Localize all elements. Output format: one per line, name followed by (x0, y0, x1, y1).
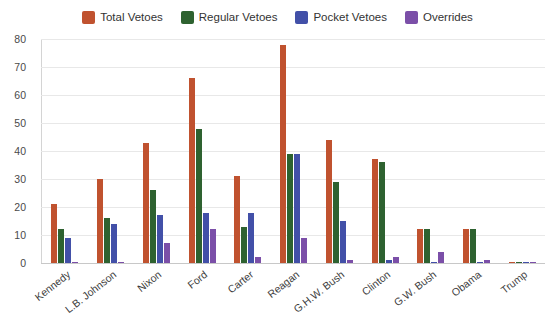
y-axis-tick-label: 80 (0, 33, 26, 45)
bar[interactable] (196, 129, 202, 263)
bar[interactable] (111, 224, 117, 263)
bar[interactable] (347, 260, 353, 263)
bar[interactable] (51, 204, 57, 263)
bar[interactable] (248, 213, 254, 263)
x-axis-tick-cell: Ford (179, 266, 225, 328)
legend-swatch-icon (181, 11, 194, 24)
x-axis-tick-label: Kennedy (32, 268, 72, 303)
bar[interactable] (72, 262, 78, 263)
x-axis-tick-label: Ford (185, 268, 209, 291)
bar[interactable] (424, 229, 430, 263)
bar[interactable] (530, 262, 536, 263)
bar-group (42, 39, 88, 263)
legend-swatch-icon (405, 11, 418, 24)
bar-group (499, 39, 545, 263)
bar-group (179, 39, 225, 263)
bar[interactable] (97, 179, 103, 263)
bar[interactable] (143, 143, 149, 263)
bar[interactable] (393, 257, 399, 263)
bar[interactable] (340, 221, 346, 263)
presidential-vetoes-bar-chart: Total VetoesRegular VetoesPocket VetoesO… (0, 0, 555, 329)
bar[interactable] (431, 262, 437, 263)
x-axis-tick-label: Trump (499, 268, 530, 296)
bar-group (88, 39, 134, 263)
bar-group (225, 39, 271, 263)
bar[interactable] (203, 213, 209, 263)
bar[interactable] (379, 162, 385, 263)
x-axis-tick-label: Carter (225, 268, 255, 295)
x-axis-tick-cell: G.W. Bush (408, 266, 454, 328)
bar[interactable] (477, 262, 483, 263)
x-axis-tick-cell: Carter (225, 266, 271, 328)
plot-area: 01020304050607080 (41, 39, 545, 264)
x-axis-tick-label: Nixon (135, 268, 164, 294)
bar[interactable] (386, 260, 392, 263)
bar[interactable] (333, 182, 339, 263)
bar-group (316, 39, 362, 263)
bar-groups (42, 39, 545, 263)
bar[interactable] (255, 257, 261, 263)
bar[interactable] (438, 252, 444, 263)
chart-legend: Total VetoesRegular VetoesPocket VetoesO… (0, 11, 555, 24)
bar[interactable] (463, 229, 469, 263)
x-axis-tick-labels: KennedyL.B. JohnsonNixonFordCarterReagan… (42, 266, 545, 328)
bar[interactable] (287, 154, 293, 263)
y-axis-tick-label: 50 (0, 117, 26, 129)
bar[interactable] (294, 154, 300, 263)
y-axis-tick-label: 70 (0, 61, 26, 73)
bar[interactable] (65, 238, 71, 263)
bar[interactable] (280, 45, 286, 263)
bar[interactable] (509, 262, 515, 263)
bar[interactable] (523, 262, 529, 263)
bar[interactable] (372, 159, 378, 263)
legend-item-label: Overrides (423, 11, 473, 24)
legend-item[interactable]: Total Vetoes (82, 11, 163, 24)
bar-group (454, 39, 500, 263)
bar[interactable] (118, 262, 124, 263)
bar[interactable] (241, 227, 247, 263)
bar[interactable] (484, 260, 490, 263)
bar[interactable] (301, 238, 307, 263)
x-axis-tick-label: Obama (449, 268, 484, 299)
y-axis-tick-label: 0 (0, 257, 26, 269)
bar[interactable] (189, 78, 195, 263)
bar-group (362, 39, 408, 263)
bar[interactable] (234, 176, 240, 263)
legend-swatch-icon (82, 11, 95, 24)
bar-group (133, 39, 179, 263)
y-axis-tick-label: 30 (0, 173, 26, 185)
legend-item-label: Pocket Vetoes (313, 11, 387, 24)
bar[interactable] (157, 215, 163, 263)
bar[interactable] (150, 190, 156, 263)
bar[interactable] (164, 243, 170, 263)
x-axis-tick-cell: L.B. Johnson (88, 266, 134, 328)
x-axis-tick-cell: Nixon (133, 266, 179, 328)
bar[interactable] (210, 229, 216, 263)
bar-group (408, 39, 454, 263)
legend-item-label: Total Vetoes (100, 11, 163, 24)
legend-swatch-icon (295, 11, 308, 24)
legend-item[interactable]: Regular Vetoes (181, 11, 278, 24)
x-axis-tick-cell: Trump (499, 266, 545, 328)
legend-item[interactable]: Overrides (405, 11, 473, 24)
bar[interactable] (470, 229, 476, 263)
y-axis-tick-label: 60 (0, 89, 26, 101)
x-axis-tick-cell: Obama (454, 266, 500, 328)
bar-group (271, 39, 317, 263)
y-axis-tick-label: 20 (0, 201, 26, 213)
bar[interactable] (58, 229, 64, 263)
bar[interactable] (104, 218, 110, 263)
legend-item[interactable]: Pocket Vetoes (295, 11, 387, 24)
bar[interactable] (516, 262, 522, 263)
bar[interactable] (326, 140, 332, 263)
legend-item-label: Regular Vetoes (199, 11, 278, 24)
x-axis-line (41, 263, 545, 264)
y-axis-tick-label: 10 (0, 229, 26, 241)
y-axis-tick-label: 40 (0, 145, 26, 157)
x-axis-tick-cell: G.H.W. Bush (316, 266, 362, 328)
x-axis-tick-label: Clinton (359, 268, 392, 298)
x-axis-tick-label: Reagan (265, 268, 301, 300)
bar[interactable] (417, 229, 423, 263)
